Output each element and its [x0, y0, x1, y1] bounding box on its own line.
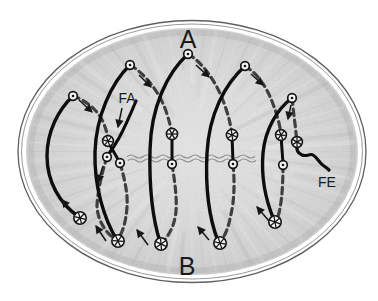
nucleus-dot-icon	[106, 156, 109, 159]
bottom-aster-4	[214, 237, 226, 249]
nucleus-dot-icon	[244, 65, 247, 68]
nucleus-dot-icon	[72, 95, 75, 98]
bottom-aster-3	[155, 238, 167, 250]
aster-dot-icon	[280, 134, 282, 136]
nucleus-dot-icon	[232, 163, 235, 166]
aster-dot-icon	[107, 140, 109, 142]
label-anterior-pole: A	[180, 25, 197, 53]
aster-dot-icon	[171, 133, 173, 135]
label-posterior-pole: B	[179, 252, 196, 280]
equator-aster-3	[226, 129, 237, 140]
equator-aster-1	[103, 136, 114, 147]
nucleus-dot-icon	[119, 162, 122, 165]
bottom-aster-1	[74, 212, 86, 224]
nucleus-dot-icon	[282, 164, 285, 167]
aster-dot-icon	[296, 141, 298, 143]
aster-dot-icon	[160, 243, 162, 245]
label-fa: FA	[118, 90, 136, 106]
fe-aster	[292, 137, 303, 148]
nucleus-dot-icon	[129, 64, 132, 67]
equator-nucleus-3	[229, 160, 238, 169]
equator-nucleus-1	[116, 159, 125, 168]
top-nucleus-1	[69, 92, 78, 101]
label-fe: FE	[318, 174, 336, 190]
embryo-diagram: A B FA FE	[0, 0, 378, 301]
nucleus-dot-icon	[291, 97, 294, 100]
bottom-aster-2	[112, 235, 124, 247]
equator-aster-2	[166, 128, 177, 139]
aster-dot-icon	[79, 217, 81, 219]
equator-nucleus-4	[279, 161, 288, 170]
fa-nucleus	[103, 153, 112, 162]
nucleus-dot-icon	[187, 53, 190, 56]
top-nucleus-2	[126, 61, 135, 70]
top-nucleus-5	[288, 94, 297, 103]
equator-nucleus-2	[168, 160, 177, 169]
top-nucleus-4	[241, 62, 250, 71]
bottom-aster-5	[269, 216, 281, 228]
nucleus-dot-icon	[171, 163, 174, 166]
aster-dot-icon	[219, 242, 221, 244]
aster-dot-icon	[274, 221, 276, 223]
aster-dot-icon	[117, 240, 119, 242]
aster-dot-icon	[231, 134, 233, 136]
equator-aster-4	[276, 130, 287, 141]
